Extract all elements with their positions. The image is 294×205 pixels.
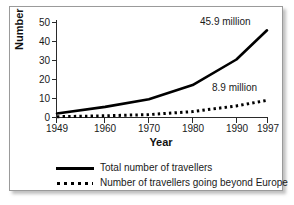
- legend-label-beyond-europe: Number of travellers going beyond Europe: [100, 177, 288, 188]
- y-axis-title: Number: [13, 8, 25, 50]
- chart-figure: 50 40 30 20 10 0 1949 1960 1970 1980 199…: [0, 0, 294, 205]
- x-tick-label-1970: 1970: [132, 123, 166, 134]
- x-axis-title: Year: [56, 136, 266, 148]
- y-tick-label-30: 30: [32, 55, 50, 66]
- y-tick-label-20: 20: [32, 74, 50, 85]
- annotation-beyond-europe-value: 8.9 million: [212, 82, 257, 93]
- y-tick-label-50: 50: [32, 17, 50, 28]
- x-tick-label-1949: 1949: [40, 123, 74, 134]
- y-tick-label-10: 10: [32, 93, 50, 104]
- x-tick-label-1990: 1990: [220, 123, 254, 134]
- y-tick-label-0: 0: [32, 112, 50, 123]
- legend-item-total: Total number of travellers: [56, 160, 274, 175]
- annotation-total-value: 45.9 million: [200, 16, 251, 27]
- dotted-line-swatch-icon: [56, 177, 94, 189]
- legend-label-total: Total number of travellers: [100, 162, 212, 173]
- chart-legend: Total number of travellers Number of tra…: [56, 160, 274, 190]
- y-tick-label-40: 40: [32, 36, 50, 47]
- x-tick-label-1980: 1980: [176, 123, 210, 134]
- legend-item-beyond-europe: Number of travellers going beyond Europe: [56, 175, 274, 190]
- x-tick-label-1997: 1997: [251, 123, 285, 134]
- solid-line-swatch-icon: [56, 162, 94, 174]
- x-tick-label-1960: 1960: [88, 123, 122, 134]
